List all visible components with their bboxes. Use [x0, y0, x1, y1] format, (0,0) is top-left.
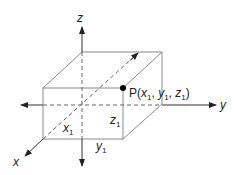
coordinate-diagram: z y x P(x1, y1, z1) x1 z1 y1: [0, 0, 237, 175]
x-axis-dashed: [43, 55, 136, 139]
x1-label: x1: [62, 121, 74, 137]
point-label: P(x1, y1, z1): [129, 86, 190, 102]
x-axis-label: x: [12, 155, 20, 169]
box-edge: [123, 104, 162, 139]
z-axis-label: z: [76, 11, 83, 25]
box-edge: [123, 52, 162, 88]
box-edge: [43, 52, 82, 88]
point-p: [120, 85, 126, 91]
y-axis-label: y: [219, 98, 227, 112]
y1-label: y1: [95, 139, 107, 155]
x-axis-arrow-icon: [25, 139, 43, 156]
z1-label: z1: [109, 113, 121, 129]
x-axis-back-arrow-icon: [130, 53, 138, 61]
